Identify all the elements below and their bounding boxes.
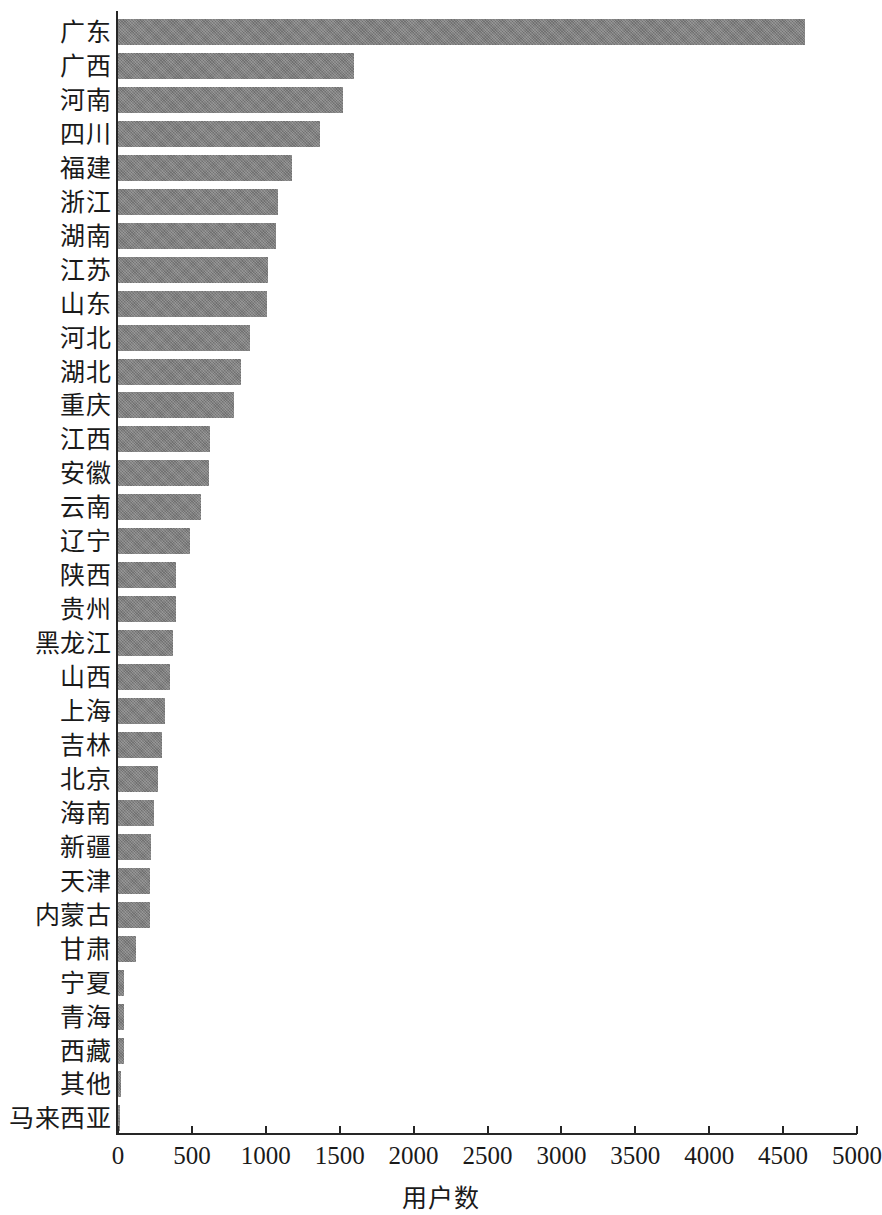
bar: [118, 1071, 121, 1097]
category-label: 青海: [60, 999, 111, 1036]
x-axis-tick: [560, 1126, 562, 1134]
category-label: 福建: [60, 150, 111, 187]
bar: [118, 834, 151, 860]
bar: [118, 1004, 124, 1030]
bar-row: 西藏: [0, 1033, 881, 1070]
bar: [118, 494, 201, 520]
bar-row: 江苏: [0, 252, 881, 289]
bar: [118, 1038, 124, 1064]
bar-row: 吉林: [0, 727, 881, 764]
category-label: 西藏: [60, 1033, 111, 1070]
bar-row: 马来西亚: [0, 1100, 881, 1137]
bar-row: 贵州: [0, 591, 881, 628]
category-label: 马来西亚: [9, 1100, 111, 1137]
bar-row: 黑龙江: [0, 625, 881, 662]
bar-row: 江西: [0, 421, 881, 458]
category-label: 四川: [60, 116, 111, 153]
bar: [118, 359, 241, 385]
x-axis-tick: [856, 1126, 858, 1134]
category-label: 天津: [60, 863, 111, 900]
bar-row: 河南: [0, 82, 881, 119]
x-axis-title: 用户数: [0, 1178, 881, 1214]
category-label: 河南: [60, 82, 111, 119]
x-axis-tick-label: 5000: [832, 1142, 882, 1170]
bar: [118, 766, 158, 792]
bar-row: 浙江: [0, 184, 881, 221]
bar: [118, 223, 276, 249]
bar: [118, 257, 268, 283]
x-axis-tick: [782, 1126, 784, 1134]
category-label: 辽宁: [60, 523, 111, 560]
bar: [118, 596, 176, 622]
category-label: 内蒙古: [35, 897, 112, 934]
x-axis-tick: [339, 1126, 341, 1134]
category-label: 陕西: [60, 557, 111, 594]
x-axis-tick-label: 2500: [463, 1142, 513, 1170]
category-label: 云南: [60, 489, 111, 526]
x-axis-tick-label: 2000: [389, 1142, 439, 1170]
bar-row: 宁夏: [0, 965, 881, 1002]
category-label: 新疆: [60, 829, 111, 866]
x-axis-tick: [117, 1126, 119, 1134]
category-label: 广东: [60, 14, 111, 51]
category-label: 江西: [60, 421, 111, 458]
x-axis-tick-label: 4000: [684, 1142, 734, 1170]
bar: [118, 732, 162, 758]
category-label: 湖南: [60, 218, 111, 255]
bar-row: 山西: [0, 659, 881, 696]
bar: [118, 291, 267, 317]
bar-row: 天津: [0, 863, 881, 900]
bar: [118, 121, 320, 147]
bar-row: 安徽: [0, 455, 881, 492]
x-axis-tick: [708, 1126, 710, 1134]
bar: [118, 19, 805, 45]
category-label: 江苏: [60, 252, 111, 289]
bar-row: 广东: [0, 14, 881, 51]
bar: [118, 936, 136, 962]
bar-row: 湖南: [0, 218, 881, 255]
bar-row: 云南: [0, 489, 881, 526]
bar-row: 山东: [0, 286, 881, 323]
category-label: 吉林: [60, 727, 111, 764]
bar: [118, 698, 165, 724]
x-axis-tick-label: 0: [112, 1142, 125, 1170]
x-axis-tick-label: 3500: [610, 1142, 660, 1170]
bar-row: 四川: [0, 116, 881, 153]
bar-row: 辽宁: [0, 523, 881, 560]
category-label: 重庆: [60, 387, 111, 424]
x-axis-tick: [265, 1126, 267, 1134]
category-label: 广西: [60, 48, 111, 85]
category-label: 其他: [60, 1066, 111, 1103]
category-label: 黑龙江: [35, 625, 112, 662]
x-axis-tick-label: 500: [173, 1142, 211, 1170]
bar-row: 上海: [0, 693, 881, 730]
x-axis-tick-label: 4500: [758, 1142, 808, 1170]
bar-row: 海南: [0, 795, 881, 832]
category-label: 湖北: [60, 354, 111, 391]
bar: [118, 460, 209, 486]
bar-row: 青海: [0, 999, 881, 1036]
category-label: 海南: [60, 795, 111, 832]
category-label: 浙江: [60, 184, 111, 221]
x-axis-tick: [413, 1126, 415, 1134]
category-label: 宁夏: [60, 965, 111, 1002]
x-axis-tick: [487, 1126, 489, 1134]
bar: [118, 902, 150, 928]
bar: [118, 155, 292, 181]
bar-row: 新疆: [0, 829, 881, 866]
bar: [118, 53, 354, 79]
bar: [118, 664, 170, 690]
bar-row: 广西: [0, 48, 881, 85]
category-label: 甘肃: [60, 931, 111, 968]
bar: [118, 426, 210, 452]
bar-row: 河北: [0, 320, 881, 357]
bar: [118, 325, 250, 351]
bar: [118, 562, 176, 588]
bar: [118, 392, 234, 418]
bar-row: 福建: [0, 150, 881, 187]
category-label: 上海: [60, 693, 111, 730]
category-label: 安徽: [60, 455, 111, 492]
bar: [118, 630, 173, 656]
